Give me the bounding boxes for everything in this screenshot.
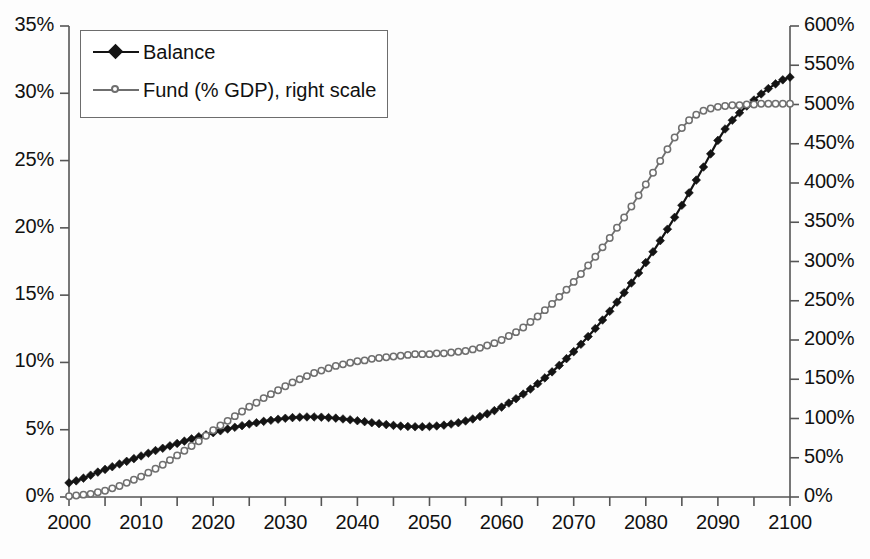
data-point-marker <box>382 420 391 429</box>
x-axis-tick-label: 2070 <box>534 511 614 534</box>
data-point-marker <box>549 301 555 307</box>
data-point-marker <box>462 348 468 354</box>
legend-label-fund: Fund (% GDP), right scale <box>139 79 376 102</box>
y-axis-right-tick-label: 250% <box>804 288 854 311</box>
x-axis-tick-label: 2100 <box>750 511 830 534</box>
data-point-marker <box>470 346 476 352</box>
data-point-marker <box>304 373 310 379</box>
data-point-marker <box>268 391 274 397</box>
data-point-marker <box>281 414 290 423</box>
data-point-marker <box>252 418 261 427</box>
data-point-marker <box>109 485 115 491</box>
data-point-marker <box>346 415 355 424</box>
data-point-marker <box>180 437 189 446</box>
data-point-marker <box>736 102 742 108</box>
y-axis-right-tick-label: 500% <box>804 92 854 115</box>
data-point-marker <box>383 354 389 360</box>
data-point-marker <box>700 108 706 114</box>
data-point-marker <box>628 203 634 209</box>
data-point-marker <box>671 134 677 140</box>
data-point-marker <box>441 350 447 356</box>
data-point-marker <box>448 349 454 355</box>
y-axis-right-tick-label: 0% <box>804 484 833 507</box>
data-point-marker <box>95 489 101 495</box>
data-point-marker <box>578 271 584 277</box>
x-axis-tick-label: 2060 <box>462 511 542 534</box>
legend-label-balance: Balance <box>139 41 215 64</box>
x-axis-tick-label: 2050 <box>390 511 470 534</box>
legend-marker-open-circle-icon <box>93 79 139 101</box>
data-point-marker <box>347 360 353 366</box>
data-point-marker <box>397 353 403 359</box>
data-point-marker <box>527 319 533 325</box>
data-point-marker <box>232 413 238 419</box>
data-point-marker <box>455 349 461 355</box>
data-point-marker <box>253 400 259 406</box>
data-point-marker <box>686 117 692 123</box>
data-point-marker <box>692 176 701 185</box>
legend-item-balance[interactable]: Balance <box>93 40 215 64</box>
data-point-marker <box>339 415 348 424</box>
y-axis-left-tick-label: 25% <box>0 148 54 171</box>
data-point-marker <box>188 443 194 449</box>
data-point-marker <box>145 469 151 475</box>
data-point-marker <box>361 357 367 363</box>
data-point-marker <box>765 101 771 107</box>
y-axis-right-tick-label: 400% <box>804 170 854 193</box>
data-point-marker <box>758 101 764 107</box>
data-point-marker <box>116 483 122 489</box>
data-point-marker <box>434 350 440 356</box>
data-point-marker <box>520 324 526 330</box>
data-point-marker <box>102 488 108 494</box>
data-point-marker <box>447 420 456 429</box>
data-point-marker <box>707 105 713 111</box>
y-axis-right-tick-label: 50% <box>804 445 843 468</box>
data-point-marker <box>217 422 223 428</box>
data-point-marker <box>196 438 202 444</box>
data-point-marker <box>210 427 216 433</box>
data-point-marker <box>187 435 196 444</box>
data-point-marker <box>635 192 641 198</box>
data-point-marker <box>706 150 715 159</box>
x-axis-tick-label: 2000 <box>29 511 109 534</box>
data-point-marker <box>751 101 757 107</box>
data-point-marker <box>224 418 230 424</box>
data-point-marker <box>238 421 247 430</box>
data-point-marker <box>246 404 252 410</box>
data-point-marker <box>223 425 232 434</box>
y-axis-right-tick-label: 150% <box>804 366 854 389</box>
data-point-marker <box>166 442 175 451</box>
x-axis-tick-label: 2080 <box>606 511 686 534</box>
data-point-marker <box>267 416 276 425</box>
data-point-marker <box>426 351 432 357</box>
data-point-marker <box>679 125 685 131</box>
data-point-marker <box>650 170 656 176</box>
data-point-marker <box>491 340 497 346</box>
data-point-marker <box>325 365 331 371</box>
data-point-marker <box>425 422 434 431</box>
y-axis-right-tick-label: 100% <box>804 406 854 429</box>
x-axis-tick-label: 2020 <box>173 511 253 534</box>
data-point-marker <box>614 225 620 231</box>
data-point-marker <box>331 414 340 423</box>
x-axis-tick-label: 2030 <box>245 511 325 534</box>
data-point-marker <box>621 214 627 220</box>
data-point-marker <box>389 421 398 430</box>
data-point-marker <box>311 370 317 376</box>
data-point-marker <box>461 417 470 426</box>
data-point-marker <box>353 416 362 425</box>
data-point-marker <box>158 444 167 453</box>
data-point-marker <box>174 452 180 458</box>
data-point-marker <box>477 345 483 351</box>
legend-item-fund[interactable]: Fund (% GDP), right scale <box>93 78 376 102</box>
data-point-marker <box>454 418 463 427</box>
data-point-marker <box>563 287 569 293</box>
series-balance <box>65 73 795 487</box>
data-point-marker <box>744 101 750 107</box>
data-point-marker <box>772 101 778 107</box>
data-point-marker <box>412 351 418 357</box>
data-point-marker <box>729 102 735 108</box>
series-line <box>69 104 790 496</box>
data-point-marker <box>203 433 209 439</box>
data-point-marker <box>375 419 384 428</box>
